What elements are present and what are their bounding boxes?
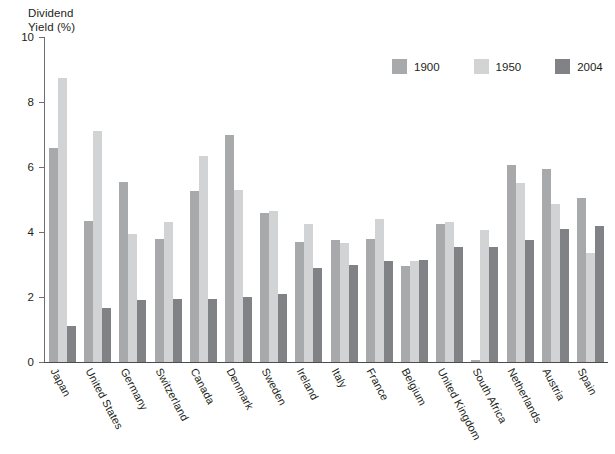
y-tick	[39, 102, 44, 103]
bar-1950	[516, 183, 525, 362]
bar-1950	[480, 230, 489, 362]
x-axis-label: Spain	[576, 366, 600, 397]
legend-item[interactable]: 1950	[474, 59, 522, 74]
bar-2004	[173, 299, 182, 362]
x-axis-label: Belgium	[400, 366, 430, 407]
bar-2004	[102, 308, 111, 362]
bar-group	[573, 37, 608, 362]
bar-1900	[542, 169, 551, 362]
bar-1950	[304, 224, 313, 362]
legend-swatch-icon	[555, 59, 570, 74]
bar-1950	[199, 156, 208, 362]
bar-1950	[93, 131, 102, 362]
x-axis-label: South Africa	[470, 366, 509, 425]
bar-2004	[489, 247, 498, 362]
bar-1900	[260, 213, 269, 363]
x-axis-label: Netherlands	[505, 366, 544, 425]
bar-2004	[278, 294, 287, 362]
bar-2004	[208, 299, 217, 362]
bar-group	[432, 37, 467, 362]
bar-group	[221, 37, 256, 362]
bar-2004	[349, 265, 358, 363]
legend-item[interactable]: 2004	[555, 59, 603, 74]
legend-label: 2004	[577, 61, 603, 73]
bar-group	[327, 37, 362, 362]
dividend-yield-bar-chart: DividendYield (%) 0246810 JapanUnited St…	[0, 0, 615, 454]
bar-2004	[137, 300, 146, 362]
y-tick-label: 10	[12, 31, 34, 43]
bar-groups	[45, 37, 608, 362]
legend-item[interactable]: 1900	[392, 59, 440, 74]
legend-label: 1900	[414, 61, 440, 73]
bar-group	[538, 37, 573, 362]
x-axis-label: United States	[83, 366, 125, 431]
x-axis-label: Switzerland	[154, 366, 192, 423]
bar-1900	[119, 182, 128, 362]
bar-group	[186, 37, 221, 362]
bar-group	[151, 37, 186, 362]
bar-group	[467, 37, 502, 362]
y-tick-label: 2	[12, 291, 34, 303]
bar-1900	[190, 191, 199, 362]
bar-1900	[225, 135, 234, 363]
y-axis-title-line2: Yield (%)	[28, 21, 75, 33]
bar-1950	[410, 261, 419, 362]
bar-2004	[67, 326, 76, 362]
legend-swatch-icon	[474, 59, 489, 74]
y-axis-title-line1: Dividend	[28, 7, 74, 19]
bar-group	[397, 37, 432, 362]
y-tick-label: 4	[12, 226, 34, 238]
bar-2004	[525, 240, 534, 362]
chart-legend: 190019502004	[392, 59, 603, 74]
bar-1950	[128, 234, 137, 362]
x-axis-label: Ireland	[294, 366, 321, 402]
bar-1950	[269, 211, 278, 362]
bar-1900	[331, 240, 340, 362]
x-axis-label: Canada	[189, 366, 218, 406]
bar-1900	[436, 224, 445, 362]
plot-area: 0246810	[44, 37, 608, 363]
x-axis-labels: JapanUnited StatesGermanySwitzerlandCana…	[44, 366, 608, 452]
bar-group	[45, 37, 80, 362]
y-axis-title: DividendYield (%)	[28, 6, 75, 34]
y-tick-label: 6	[12, 161, 34, 173]
bar-2004	[560, 229, 569, 362]
bar-2004	[243, 297, 252, 362]
x-axis-label: Italy	[329, 366, 349, 390]
legend-label: 1950	[496, 61, 522, 73]
x-axis-label: Sweden	[259, 366, 289, 407]
y-tick	[39, 362, 44, 363]
bar-1900	[471, 360, 480, 362]
bar-1950	[234, 190, 243, 362]
bar-1950	[445, 222, 454, 362]
bar-group	[362, 37, 397, 362]
bar-1950	[58, 78, 67, 362]
y-tick	[39, 232, 44, 233]
bar-1900	[84, 221, 93, 362]
bar-group	[502, 37, 537, 362]
bar-group	[80, 37, 115, 362]
bar-1900	[49, 148, 58, 363]
y-tick	[39, 37, 44, 38]
bar-1950	[586, 253, 595, 362]
bar-2004	[595, 226, 604, 363]
bar-1900	[155, 239, 164, 363]
bar-1900	[295, 242, 304, 362]
bar-1900	[366, 239, 375, 363]
bar-group	[256, 37, 291, 362]
bar-1900	[577, 198, 586, 362]
y-tick	[39, 297, 44, 298]
legend-swatch-icon	[392, 59, 407, 74]
bar-2004	[419, 260, 428, 362]
bar-group	[115, 37, 150, 362]
bar-group	[291, 37, 326, 362]
y-tick-label: 8	[12, 96, 34, 108]
bar-2004	[384, 261, 393, 362]
x-axis-label: Austria	[541, 366, 568, 402]
x-axis-label: Denmark	[224, 366, 256, 412]
y-tick	[39, 167, 44, 168]
bar-1950	[340, 243, 349, 362]
y-tick-label: 0	[12, 356, 34, 368]
bar-1950	[551, 204, 560, 362]
bar-1950	[375, 219, 384, 362]
